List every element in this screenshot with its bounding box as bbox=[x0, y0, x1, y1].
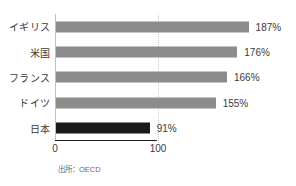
category-label: イギリス bbox=[0, 19, 50, 34]
bar-row: ドイツ155% bbox=[0, 90, 296, 115]
category-label: 米国 bbox=[0, 45, 50, 60]
category-label: フランス bbox=[0, 70, 50, 85]
bar-wrapper: 187% bbox=[56, 21, 281, 32]
x-tick-0: 0 bbox=[52, 143, 58, 154]
bar-row: 米国176% bbox=[0, 39, 296, 64]
bar-wrapper: 91% bbox=[56, 123, 177, 134]
category-label: ドイツ bbox=[0, 95, 50, 110]
bar-rows: イギリス187%米国176%フランス166%ドイツ155%日本91% bbox=[0, 14, 296, 141]
x-tick-100: 100 bbox=[150, 143, 167, 154]
value-label: 155% bbox=[223, 97, 249, 108]
bar bbox=[56, 21, 249, 32]
value-label: 91% bbox=[157, 123, 177, 134]
value-label: 176% bbox=[244, 47, 270, 58]
bar-chart: イギリス187%米国176%フランス166%ドイツ155%日本91% 0 100… bbox=[0, 0, 296, 186]
value-label: 187% bbox=[256, 21, 282, 32]
bar bbox=[56, 72, 227, 83]
bar bbox=[56, 97, 216, 108]
bar-row: 日本91% bbox=[0, 116, 296, 141]
bar-wrapper: 155% bbox=[56, 97, 248, 108]
bar-row: フランス166% bbox=[0, 65, 296, 90]
bar bbox=[56, 123, 150, 134]
bar-wrapper: 176% bbox=[56, 47, 270, 58]
source-note: 出所：OECD bbox=[58, 163, 101, 174]
bar-row: イギリス187% bbox=[0, 14, 296, 39]
category-label: 日本 bbox=[0, 121, 50, 136]
bar bbox=[56, 47, 237, 58]
value-label: 166% bbox=[234, 72, 260, 83]
bar-wrapper: 166% bbox=[56, 72, 260, 83]
